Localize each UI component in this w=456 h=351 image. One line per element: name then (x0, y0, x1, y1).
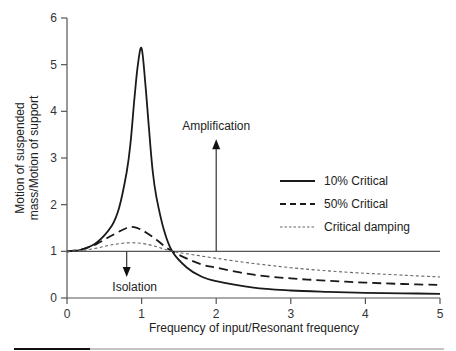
arrowhead-down-icon (123, 267, 131, 277)
isolation-annotation: Isolation (112, 251, 157, 294)
legend-label-critical-damping: Critical damping (324, 220, 410, 234)
x-tick-label: 1 (138, 307, 145, 321)
legend: 10% Critical 50% Critical Critical dampi… (280, 174, 410, 234)
y-tick-label: 4 (50, 104, 57, 118)
curve-50pct-critical (67, 227, 440, 285)
curve-10pct-critical (67, 48, 440, 294)
y-tick-label: 5 (50, 58, 57, 72)
x-tick-label: 2 (213, 307, 220, 321)
y-ticks: 0123456 (50, 11, 67, 305)
curve-critical-damping (67, 243, 440, 277)
legend-label-50pct: 50% Critical (324, 197, 388, 211)
y-axis-title: Motion of suspended mass/Motion of suppo… (13, 95, 41, 220)
x-ticks: 012345 (64, 298, 444, 321)
y-axis-title-line2: mass/Motion of support (27, 95, 41, 220)
isolation-label: Isolation (112, 280, 157, 294)
legend-label-10pct: 10% Critical (324, 174, 388, 188)
x-tick-label: 5 (437, 307, 444, 321)
x-tick-label: 0 (64, 307, 71, 321)
amplification-annotation: Amplification (182, 119, 250, 251)
y-tick-label: 2 (50, 198, 57, 212)
x-axis-title: Frequency of input/Resonant frequency (149, 321, 359, 335)
x-tick-label: 3 (287, 307, 294, 321)
y-axis-title-line1: Motion of suspended (13, 102, 27, 213)
vibration-transmissibility-chart: 0123456 012345 Amplification Isolation 1… (0, 0, 456, 351)
y-tick-label: 0 (50, 291, 57, 305)
y-tick-label: 3 (50, 151, 57, 165)
arrowhead-up-icon (212, 139, 220, 149)
y-tick-label: 1 (50, 244, 57, 258)
amplification-label: Amplification (182, 119, 250, 133)
y-tick-label: 6 (50, 11, 57, 25)
x-tick-label: 4 (362, 307, 369, 321)
axes (67, 18, 440, 298)
